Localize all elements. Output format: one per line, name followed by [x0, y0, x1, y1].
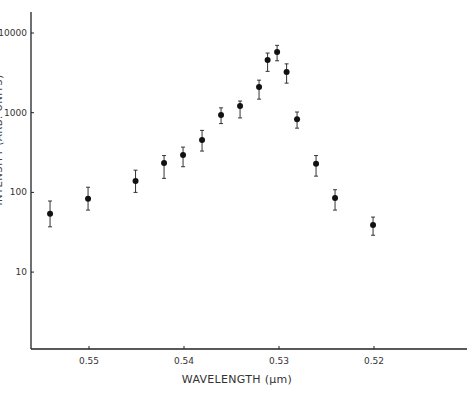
x-tick-label: 0.52	[364, 356, 384, 366]
y-tick-label: 100	[10, 187, 27, 197]
data-point-group	[332, 190, 338, 210]
x-tick-label: 0.55	[79, 356, 99, 366]
data-point-group	[294, 112, 300, 128]
data-point	[133, 178, 139, 184]
data-point-group	[85, 187, 91, 210]
data-point-group	[133, 170, 139, 192]
y-tick-label: 10	[16, 267, 28, 277]
data-point-group	[180, 147, 186, 167]
data-point-group	[284, 64, 290, 83]
data-point	[256, 84, 262, 90]
data-points	[47, 45, 376, 235]
data-point	[313, 161, 319, 167]
data-point	[180, 152, 186, 158]
data-point-group	[218, 108, 224, 124]
data-point-group	[274, 45, 280, 60]
data-point	[85, 196, 91, 202]
data-point	[161, 160, 167, 166]
x-tick-label: 0.53	[269, 356, 289, 366]
x-tick-label: 0.54	[174, 356, 194, 366]
data-point	[237, 103, 243, 109]
axes	[31, 12, 467, 349]
data-point-group	[47, 201, 53, 227]
data-point	[199, 137, 205, 143]
data-point-group	[313, 156, 319, 177]
x-axis-title: WAVELENGTH (μm)	[182, 373, 292, 386]
data-point-group	[265, 53, 271, 71]
data-point	[284, 69, 290, 75]
data-point-group	[256, 80, 262, 99]
data-point-group	[237, 101, 243, 118]
data-point	[294, 116, 300, 122]
y-tick-label: 10000	[0, 28, 27, 38]
y-ticks: 10100100010000	[0, 28, 34, 277]
data-point	[218, 112, 224, 118]
data-point-group	[161, 156, 167, 179]
data-point-group	[370, 217, 376, 235]
chart: 10100100010000 0.550.540.530.52 WAVELENG…	[0, 0, 475, 394]
data-point	[370, 222, 376, 228]
data-point	[332, 195, 338, 201]
data-point-group	[199, 130, 205, 151]
data-point	[274, 49, 280, 55]
data-point	[47, 211, 53, 217]
y-axis-title: INTENSITY (ARB. UNITS)	[0, 74, 4, 205]
y-tick-label: 1000	[4, 108, 27, 118]
data-point	[265, 57, 271, 63]
